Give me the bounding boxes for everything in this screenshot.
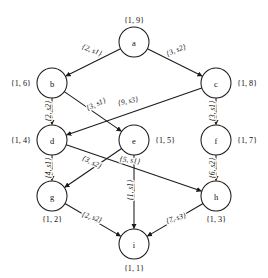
- graph-node-f[interactable]: f: [201, 125, 231, 155]
- svg-text:{2, s2}: {2, s2}: [44, 101, 53, 121]
- graph-node-i[interactable]: i: [119, 229, 149, 259]
- svg-text:{3, s1}: {3, s1}: [85, 96, 107, 113]
- edge-weight-label: {3, s1}{3, s1}: [208, 101, 217, 121]
- graph-node-b[interactable]: b: [37, 68, 67, 98]
- node-weight-h: {1, 3}: [206, 215, 226, 224]
- graph-node-e[interactable]: e: [119, 125, 149, 155]
- node-weight-d: {1, 4}: [11, 136, 31, 145]
- edge-weight-label: {6, s2}{6, s2}: [208, 158, 217, 178]
- svg-text:{9, s3}: {9, s3}: [117, 94, 139, 107]
- diagram-canvas: abcdefghi {2, s1}{2, s1}{3, s2}{3, s2}{2…: [0, 0, 268, 278]
- node-label-c: c: [214, 79, 218, 89]
- svg-text:{7, s3}: {7, s3}: [165, 211, 187, 226]
- node-weight-a: {1, 9}: [124, 16, 144, 25]
- edge-weight-label: {2, s2}{2, s2}: [44, 101, 53, 121]
- node-weight-b: {1, 6}: [11, 79, 31, 88]
- graph-node-a[interactable]: a: [119, 27, 149, 57]
- svg-text:{3, s2}: {3, s2}: [165, 42, 187, 58]
- node-label-a: a: [132, 38, 136, 48]
- svg-text:{1, s1}: {1, s1}: [126, 180, 135, 200]
- node-weight-i: {1, 1}: [124, 264, 144, 273]
- node-weight-g: {1, 2}: [42, 215, 62, 224]
- svg-text:{4, s1}: {4, s1}: [44, 158, 53, 178]
- edge-weight-label: {2, s1}{2, s1}: [81, 42, 103, 58]
- svg-text:{2, s2}: {2, s2}: [81, 210, 103, 225]
- node-weight-f: {1, 7}: [237, 136, 257, 145]
- edge-weight-label: {1, s1}{1, s1}: [126, 180, 135, 200]
- node-label-b: b: [50, 79, 54, 89]
- edge-weight-label: {4, s1}{4, s1}: [44, 158, 53, 178]
- node-label-e: e: [132, 136, 136, 146]
- svg-text:{3, s1}: {3, s1}: [208, 101, 217, 121]
- edge-weight-label: {7, s3}{7, s3}: [165, 211, 187, 226]
- graph-node-g[interactable]: g: [37, 181, 67, 211]
- graph-edge: [64, 92, 121, 132]
- graph-node-h[interactable]: h: [201, 181, 231, 211]
- node-weight-e: {1, 5}: [155, 136, 175, 145]
- svg-text:{6, s2}: {6, s2}: [208, 158, 217, 178]
- graph-svg: abcdefghi {2, s1}{2, s1}{3, s2}{3, s2}{2…: [0, 0, 268, 278]
- graph-node-d[interactable]: d: [37, 125, 67, 155]
- edge-weight-label: {3, s2}{3, s2}: [165, 42, 187, 58]
- node-label-f: f: [215, 136, 218, 146]
- svg-text:{2, s1}: {2, s1}: [81, 42, 103, 58]
- node-weight-c: {1, 8}: [237, 79, 257, 88]
- edge-weight-label: {2, s2}{2, s2}: [81, 210, 103, 225]
- edge-weight-label: {9, s3}{9, s3}: [117, 94, 139, 107]
- edge-weight-label: {3, s1}{3, s1}: [85, 96, 107, 113]
- graph-node-c[interactable]: c: [201, 68, 231, 98]
